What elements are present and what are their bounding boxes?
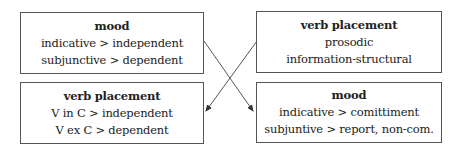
box-title: verb placement [64,88,161,105]
box-title: mood [332,87,367,104]
box-line: indicative > independent [41,35,183,52]
box-verb-placement-top-right: verb placement prosodic information-stru… [256,11,442,73]
box-line: V ex C > dependent [56,122,169,139]
box-mood-bottom-right: mood indicative > comittiment subjuntive… [256,82,442,143]
arrow-mood-to-mood [204,41,253,111]
arrow-verb-placement-to-verb-placement [206,41,257,111]
box-line: V in C > independent [51,105,172,122]
box-line: subjuntive > report, non-com. [264,121,433,138]
box-line: subjunctive > dependent [41,52,182,69]
box-mood-top-left: mood indicative > independent subjunctiv… [20,12,204,74]
box-line: information-structural [286,51,412,68]
box-title: mood [95,18,130,35]
box-line: prosodic [325,34,374,51]
box-verb-placement-bottom-left: verb placement V in C > independent V ex… [20,82,204,144]
box-line: indicative > comittiment [279,104,419,121]
box-title: verb placement [301,17,398,34]
